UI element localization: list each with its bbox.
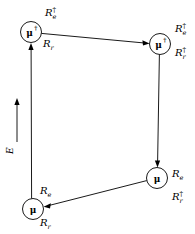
arrow-up-head-icon <box>28 43 33 50</box>
arrow-left-edge-line <box>31 48 32 199</box>
node-top-right-glyph: μ <box>155 40 162 50</box>
operator-label-bottom-right-upper: R e <box>171 168 184 182</box>
operator-dagger: † <box>53 6 57 14</box>
arrow-bottom-edge-line <box>49 181 147 206</box>
node-bottom-left-glyph: μ <box>30 205 37 215</box>
arrow-right-edge <box>155 55 160 168</box>
operator-subscript: r <box>180 197 184 205</box>
operator-label-bottom-left-lower: R r <box>39 217 52 231</box>
cycle-arrows <box>28 33 160 208</box>
operator-label-top-right-lower: R r † <box>174 46 187 62</box>
arrow-left-edge <box>28 43 33 199</box>
operator-subscript: r <box>51 44 55 52</box>
arrow-left-head-icon <box>44 203 51 208</box>
arrow-bottom-edge <box>44 181 147 209</box>
operator-subscript: e <box>53 13 57 21</box>
operator-label-bottom-right-lower: R r † <box>171 190 184 206</box>
operator-subscript: r <box>48 223 52 231</box>
operator-subscript: e <box>180 174 184 182</box>
operator-dagger: † <box>180 190 184 198</box>
operator-label-top-left-upper: R e † <box>44 6 57 22</box>
energy-axis-label: E <box>5 147 15 155</box>
operator-dagger: † <box>183 22 187 30</box>
arrow-right-head-icon <box>142 40 149 45</box>
node-top-left[interactable]: μ † <box>21 22 42 43</box>
energy-axis: E <box>5 98 20 155</box>
operator-dagger: † <box>183 46 187 54</box>
arrow-right-edge-line <box>158 55 160 163</box>
arrow-down-head-icon <box>155 160 160 167</box>
node-top-right-dagger: † <box>163 36 166 43</box>
arrow-top-edge-line <box>41 33 144 43</box>
node-top-left-dagger: † <box>34 24 37 31</box>
node-bottom-right-glyph: μ <box>154 174 161 184</box>
operator-subscript: e <box>183 29 187 37</box>
operator-label-bottom-left-upper: R e <box>39 185 52 199</box>
node-top-left-glyph: μ <box>26 28 33 38</box>
transition-cycle-diagram: E <box>0 0 195 234</box>
arrow-up-icon <box>14 98 19 105</box>
node-top-right[interactable]: μ † <box>150 34 171 55</box>
operator-subscript: r <box>183 53 187 61</box>
arrow-top-edge <box>41 33 149 45</box>
node-bottom-right[interactable]: μ <box>147 168 168 189</box>
operator-label-top-right-upper: R e † <box>174 22 187 38</box>
operator-subscript: e <box>48 191 52 199</box>
operator-label-top-left-lower: R r <box>42 38 55 52</box>
